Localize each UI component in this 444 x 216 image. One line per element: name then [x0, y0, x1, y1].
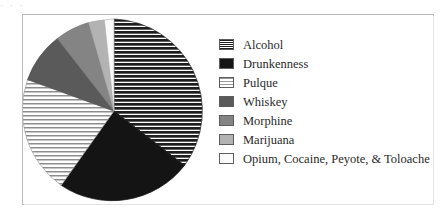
legend-label-pulque: Pulque — [243, 76, 278, 90]
legend-swatch-alcohol — [219, 39, 234, 50]
legend-item-marijuana: Marijuana — [219, 130, 431, 149]
legend-item-pulque: Pulque — [219, 73, 431, 92]
scan-artifact-text: · · · — [0, 0, 444, 12]
legend-swatch-marijuana — [219, 134, 234, 145]
legend-label-drunkenness: Drunkenness — [243, 57, 308, 71]
legend-label-marijuana: Marijuana — [243, 133, 294, 147]
legend-label-alcohol: Alcohol — [243, 38, 283, 52]
legend-label-morphine: Morphine — [243, 114, 292, 128]
pie-slices — [23, 19, 202, 201]
legend-item-alcohol: Alcohol — [219, 35, 431, 54]
legend-label-opium-cocaine-peyote-toloache: Opium, Cocaine, Peyote, & Toloache — [243, 152, 430, 166]
legend: Alcohol Drunkenness Pulque Whiskey Morph… — [219, 35, 431, 168]
legend-item-opium-cocaine-peyote-toloache: Opium, Cocaine, Peyote, & Toloache — [219, 149, 431, 168]
legend-item-whiskey: Whiskey — [219, 92, 431, 111]
legend-swatch-opium-cocaine-peyote-toloache — [219, 153, 234, 164]
legend-label-whiskey: Whiskey — [243, 95, 287, 109]
pie-chart-svg — [23, 15, 233, 206]
legend-item-morphine: Morphine — [219, 111, 431, 130]
figure-page: · · · — [0, 0, 444, 216]
legend-swatch-morphine — [219, 115, 234, 126]
legend-swatch-whiskey — [219, 96, 234, 107]
pie-chart — [23, 15, 233, 206]
legend-swatch-drunkenness — [219, 58, 234, 69]
legend-swatch-pulque — [219, 77, 234, 88]
legend-item-drunkenness: Drunkenness — [219, 54, 431, 73]
figure-frame: Alcohol Drunkenness Pulque Whiskey Morph… — [22, 14, 434, 205]
